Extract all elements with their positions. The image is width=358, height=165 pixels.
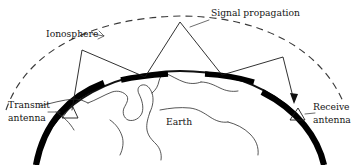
continent-outlines xyxy=(40,73,258,160)
ionosphere-label: Ionosphere xyxy=(46,28,98,39)
receive-antenna-label-line2: antenna xyxy=(313,114,351,125)
earth-label: Earth xyxy=(166,116,192,127)
coastline-segment xyxy=(228,122,258,155)
signal-propagation-label: Signal propagation xyxy=(211,7,300,18)
ray-arrow-head-icon xyxy=(290,93,298,104)
coastline-segment xyxy=(147,112,162,160)
transmit-antenna-label-line2: antenna xyxy=(8,112,46,123)
coastline-segment xyxy=(110,120,123,155)
signal-ray-path xyxy=(72,22,294,110)
ionosphere-propagation-figure: Ionosphere Signal propagation Transmit a… xyxy=(0,0,358,165)
coastline-segment xyxy=(201,82,238,91)
receive-antenna-label-line1: Receive xyxy=(313,101,350,112)
signal-propagation-leader-line xyxy=(190,20,209,27)
ground-reflection-patch-right xyxy=(205,74,254,82)
diagram-root: Ionosphere Signal propagation Transmit a… xyxy=(0,0,358,165)
coastline-segment xyxy=(165,73,201,84)
transmit-antenna-label-line1: Transmit xyxy=(8,99,50,110)
